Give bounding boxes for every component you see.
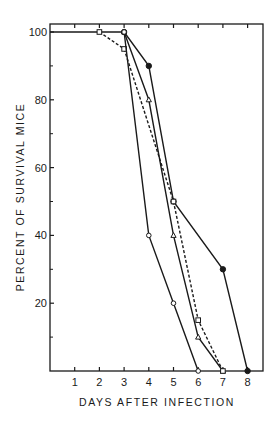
- marker-open-square: [196, 318, 201, 323]
- x-tick-label: 2: [96, 376, 102, 388]
- marker-open-circle: [196, 369, 201, 374]
- y-tick-label: 80: [35, 94, 47, 106]
- x-tick-label: 8: [245, 376, 251, 388]
- marker-filled-circle: [220, 267, 225, 272]
- marker-open-square: [221, 369, 226, 374]
- marker-open-square: [171, 199, 176, 204]
- x-tick-label: 4: [146, 376, 152, 388]
- x-tick-label: 1: [72, 376, 78, 388]
- axis-ticks: 1234567820406080100: [29, 24, 251, 388]
- y-tick-label: 100: [29, 26, 47, 38]
- x-axis-title: DAYS AFTER INFECTION: [79, 396, 235, 408]
- marker-open-triangle: [146, 97, 151, 102]
- marker-open-triangle: [171, 233, 176, 238]
- series-line-open-square: [99, 32, 222, 371]
- y-tick-label: 60: [35, 162, 47, 174]
- x-tick-label: 3: [121, 376, 127, 388]
- data-series: [50, 29, 250, 373]
- y-axis-title: PERCENT OF SURVIVAL MICE: [14, 103, 26, 292]
- marker-open-square: [97, 30, 102, 35]
- marker-open-circle: [147, 233, 152, 238]
- y-tick-label: 40: [35, 229, 47, 241]
- marker-filled-circle: [146, 63, 151, 68]
- plot-frame: [50, 24, 263, 371]
- marker-open-circle: [122, 30, 127, 35]
- x-tick-label: 7: [220, 376, 226, 388]
- series-line-filled-circle: [50, 32, 248, 371]
- marker-open-triangle: [196, 334, 201, 339]
- marker-open-circle: [171, 301, 176, 306]
- y-tick-label: 20: [35, 297, 47, 309]
- survival-chart: 1234567820406080100 DAYS AFTER INFECTION…: [0, 0, 278, 426]
- marker-filled-circle: [245, 368, 250, 373]
- x-tick-label: 5: [170, 376, 176, 388]
- x-tick-label: 6: [195, 376, 201, 388]
